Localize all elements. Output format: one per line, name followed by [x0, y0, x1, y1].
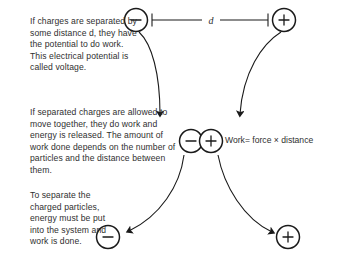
distance-label: d — [209, 15, 215, 26]
distance-dimension-line: d — [152, 14, 268, 27]
diverge-arrow-right — [218, 155, 272, 232]
paired-positive-charge — [200, 130, 223, 153]
paragraph-work-released: If separated charges are allowed to move… — [30, 107, 178, 177]
paragraph-separation-energy: To separate the charged particles, energ… — [30, 190, 110, 248]
bottom-positive-charge — [277, 226, 300, 249]
top-positive-charge — [273, 9, 296, 32]
converge-arrow-left — [139, 32, 160, 114]
work-equation-label: Work= force × distance — [225, 135, 313, 146]
figure-canvas: d If charges are separated by s — [0, 0, 347, 269]
converge-arrow-right — [240, 32, 281, 114]
paragraph-electrical-potential: If charges are separated by some distanc… — [30, 16, 142, 74]
